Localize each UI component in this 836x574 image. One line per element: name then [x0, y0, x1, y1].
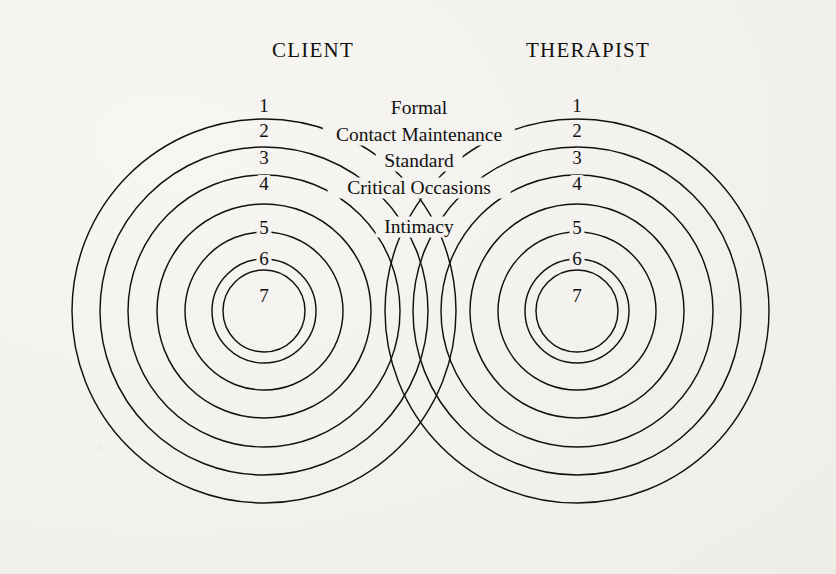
client-ring-number-5: 5	[259, 218, 269, 237]
heading-client: CLIENT	[272, 38, 354, 63]
center-label-intimacy: Intimacy	[384, 217, 453, 237]
center-label-formal: Formal	[391, 98, 447, 118]
client-ring-number-1: 1	[259, 96, 269, 115]
center-label-critical-occasions: Critical Occasions	[347, 178, 491, 198]
therapist-ring-number-2: 2	[572, 121, 582, 140]
client-ring-number-6: 6	[259, 249, 269, 268]
therapist-ring-number-4: 4	[572, 174, 582, 193]
heading-therapist: THERAPIST	[526, 38, 650, 63]
therapist-ring-number-7: 7	[572, 286, 582, 305]
therapist-ring-7	[536, 270, 618, 352]
center-label-standard: Standard	[384, 151, 453, 171]
client-ring-number-7: 7	[259, 286, 269, 305]
client-ring-number-2: 2	[259, 121, 269, 140]
therapist-ring-number-3: 3	[572, 148, 582, 167]
client-ring-6	[212, 259, 316, 363]
client-ring-number-4: 4	[259, 174, 269, 193]
figure-canvas: CLIENTTHERAPIST12345671234567FormalConta…	[0, 0, 836, 574]
therapist-ring-6	[525, 259, 629, 363]
client-ring-number-3: 3	[259, 148, 269, 167]
therapist-ring-number-6: 6	[572, 249, 582, 268]
concentric-circles-diagram	[0, 0, 836, 574]
therapist-ring-number-1: 1	[572, 96, 582, 115]
therapist-ring-number-5: 5	[572, 218, 582, 237]
center-label-contact-maintenance: Contact Maintenance	[336, 125, 502, 145]
client-ring-7	[223, 270, 305, 352]
